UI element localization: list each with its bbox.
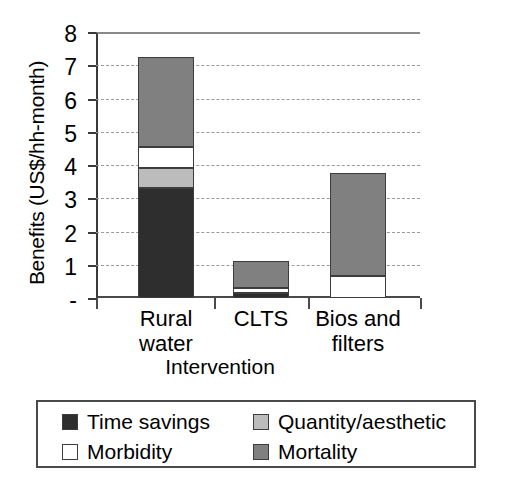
- y-axis-tick: -: [88, 298, 96, 300]
- bar-clts[interactable]: [233, 32, 289, 298]
- x-axis-label-line1: Bios and: [283, 306, 433, 331]
- x-axis-label-line2: filters: [283, 331, 433, 356]
- legend-swatch-icon: [62, 444, 78, 460]
- legend-label: Quantity/aesthetic: [278, 411, 446, 432]
- bar-rural-water[interactable]: [138, 32, 194, 298]
- y-axis-tick: 5: [88, 132, 96, 134]
- y-axis-title: Benefits (US$/hh-month): [25, 33, 49, 313]
- legend-item-mortality[interactable]: Mortality: [253, 441, 357, 462]
- legend-label: Mortality: [278, 441, 357, 462]
- bar-segment-morbidity[interactable]: [138, 147, 194, 169]
- legend-label: Morbidity: [87, 441, 172, 462]
- legend-swatch-icon: [62, 414, 78, 430]
- y-axis-tick-label: 4: [64, 156, 77, 179]
- plot-area: 87654321-: [96, 32, 420, 298]
- legend-item-time-savings[interactable]: Time savings: [62, 411, 210, 432]
- y-axis-tick-label: 3: [64, 189, 77, 212]
- y-axis-tick-label: 5: [64, 122, 77, 145]
- legend-item-quantity-aesthetic[interactable]: Quantity/aesthetic: [253, 411, 446, 432]
- bar-segment-quantity-aesthetic[interactable]: [138, 168, 194, 188]
- chart-legend: Time savingsQuantity/aestheticMorbidityM…: [36, 400, 476, 468]
- bar-segment-time-savings[interactable]: [233, 293, 289, 298]
- y-axis-tick: 4: [88, 165, 96, 167]
- y-axis-tick: 8: [88, 32, 96, 34]
- y-axis-tick-label: 8: [64, 23, 77, 46]
- x-axis-title: Intervention: [0, 355, 440, 379]
- y-axis-tick-label: 1: [64, 255, 77, 278]
- y-axis-tick: 2: [88, 232, 96, 234]
- y-axis-tick-label: 7: [64, 56, 77, 79]
- y-axis-tick: 7: [88, 65, 96, 67]
- bar-segment-morbidity[interactable]: [330, 276, 386, 298]
- legend-item-morbidity[interactable]: Morbidity: [62, 441, 172, 462]
- bar-bios-and-filters[interactable]: [330, 32, 386, 298]
- legend-label: Time savings: [87, 411, 210, 432]
- y-axis-tick: 3: [88, 198, 96, 200]
- y-axis-tick-label: -: [69, 289, 77, 312]
- y-axis-tick: 1: [88, 265, 96, 267]
- legend-swatch-icon: [253, 414, 269, 430]
- y-axis-tick-label: 2: [64, 222, 77, 245]
- x-axis-label-3: Bios andfilters: [283, 306, 433, 356]
- y-axis-tick: 6: [88, 99, 96, 101]
- bar-segment-morbidity[interactable]: [233, 288, 289, 293]
- x-axis-label-line2: water: [91, 331, 241, 356]
- bar-segment-mortality[interactable]: [233, 261, 289, 288]
- bar-segment-mortality[interactable]: [138, 57, 194, 147]
- y-axis-tick-label: 6: [64, 89, 77, 112]
- legend-swatch-icon: [253, 444, 269, 460]
- bar-segment-mortality[interactable]: [330, 173, 386, 276]
- benefits-stacked-bar-chart: Benefits (US$/hh-month) 87654321- Ruralw…: [0, 0, 521, 490]
- bar-segment-time-savings[interactable]: [138, 188, 194, 298]
